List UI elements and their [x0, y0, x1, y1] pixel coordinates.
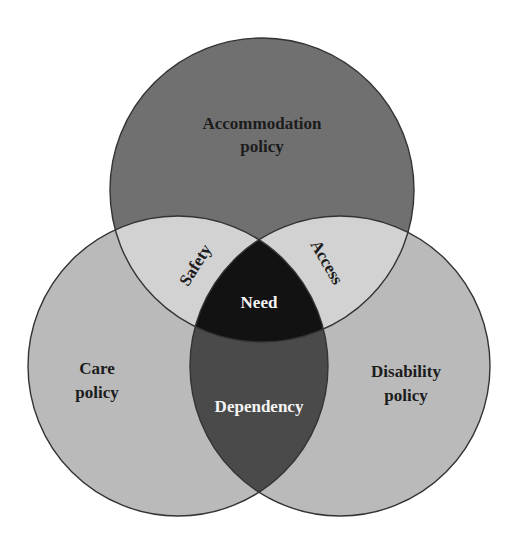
label-dependency: Dependency	[215, 397, 304, 416]
label-care-line2: policy	[75, 383, 119, 402]
venn-diagram: Accommodation policy Care policy Disabil…	[0, 0, 514, 544]
label-accommodation-line1: Accommodation	[203, 114, 323, 133]
label-accommodation-line2: policy	[240, 137, 284, 156]
label-care-line1: Care	[79, 359, 115, 378]
label-need: Need	[241, 293, 278, 312]
label-disability-line1: Disability	[371, 362, 441, 381]
label-disability-line2: policy	[384, 386, 428, 405]
